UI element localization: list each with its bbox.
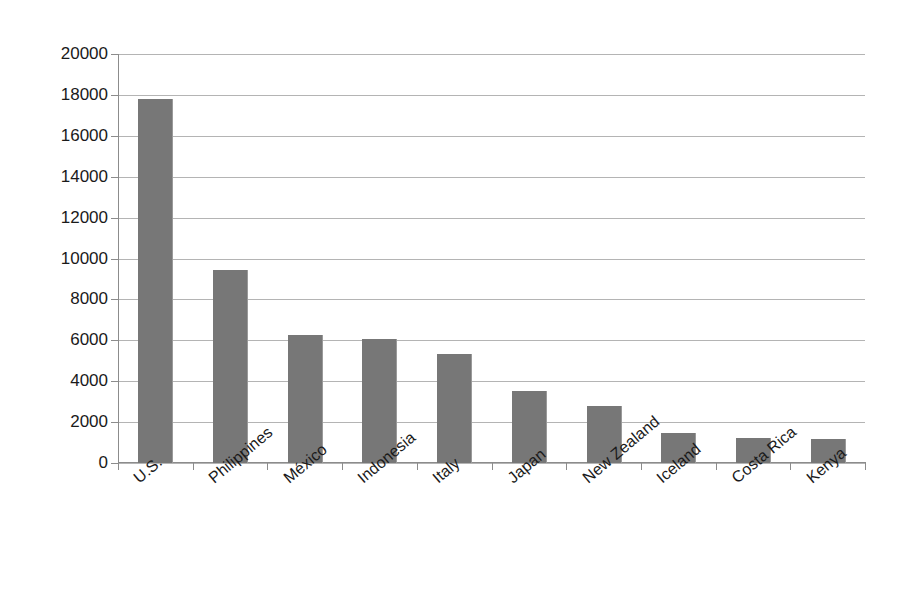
- x-tick-mark: [641, 463, 642, 470]
- y-tick-mark: [111, 422, 118, 423]
- y-tick-mark: [111, 177, 118, 178]
- plot-area: [118, 54, 865, 463]
- y-tick-label: 12000: [0, 209, 108, 226]
- y-tick-label: 20000: [0, 45, 108, 62]
- x-tick-mark: [193, 463, 194, 470]
- x-tick-mark: [267, 463, 268, 470]
- y-tick-label: 2000: [0, 413, 108, 430]
- y-tick-label: 6000: [0, 331, 108, 348]
- y-tick-mark: [111, 259, 118, 260]
- x-tick-mark: [492, 463, 493, 470]
- y-tick-mark: [111, 340, 118, 341]
- bar: [138, 99, 173, 463]
- y-tick-mark: [111, 299, 118, 300]
- y-tick-mark: [111, 54, 118, 55]
- bar: [213, 270, 248, 463]
- x-tick-mark: [716, 463, 717, 470]
- bar: [437, 354, 472, 463]
- y-tick-label: 8000: [0, 290, 108, 307]
- y-tick-label: 0: [0, 454, 108, 471]
- y-tick-label: 18000: [0, 86, 108, 103]
- x-tick-mark: [865, 463, 866, 470]
- y-tick-mark: [111, 218, 118, 219]
- y-tick-label: 16000: [0, 127, 108, 144]
- x-tick-mark: [417, 463, 418, 470]
- x-tick-mark: [566, 463, 567, 470]
- x-tick-mark: [790, 463, 791, 470]
- y-tick-mark: [111, 136, 118, 137]
- y-tick-label: 10000: [0, 250, 108, 267]
- y-tick-mark: [111, 95, 118, 96]
- y-tick-label: 4000: [0, 372, 108, 389]
- x-tick-mark: [342, 463, 343, 470]
- x-tick-mark: [118, 463, 119, 470]
- bar-chart: 0200040006000800010000120001400016000180…: [0, 0, 910, 606]
- y-tick-label: 14000: [0, 168, 108, 185]
- y-tick-mark: [111, 381, 118, 382]
- y-tick-mark: [111, 463, 118, 464]
